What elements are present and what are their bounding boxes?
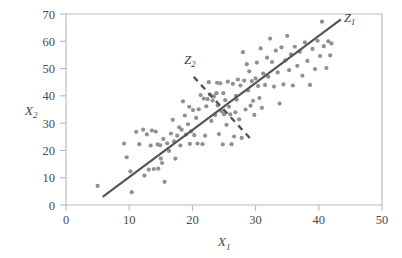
data-point	[308, 83, 312, 87]
data-point	[281, 82, 285, 86]
data-points	[96, 20, 334, 195]
x-tick-label: 30	[249, 213, 262, 227]
data-point	[229, 142, 233, 146]
data-point	[188, 142, 192, 146]
data-point	[274, 48, 278, 52]
data-point	[141, 128, 145, 132]
data-point	[270, 60, 274, 64]
x-axis-title: X1	[217, 234, 231, 252]
data-point	[204, 104, 208, 108]
data-point	[187, 105, 191, 109]
data-point	[224, 123, 228, 127]
data-point	[137, 142, 141, 146]
y-tick-label: 50	[43, 62, 56, 76]
data-point	[300, 74, 304, 78]
y-tick-labels: 010203040506070	[43, 8, 56, 213]
data-point	[215, 81, 219, 85]
data-point	[200, 142, 204, 146]
data-point	[180, 128, 184, 132]
data-point	[134, 130, 138, 134]
data-point	[183, 113, 187, 117]
x-axis-ticks	[66, 205, 382, 211]
data-point	[287, 68, 291, 72]
x-tick-label: 10	[123, 213, 136, 227]
data-point	[203, 134, 207, 138]
data-point	[276, 70, 280, 74]
data-point	[293, 45, 297, 49]
data-point	[241, 50, 245, 54]
data-point	[221, 142, 225, 146]
data-point	[237, 117, 241, 121]
data-point	[250, 79, 254, 83]
data-point	[291, 83, 295, 87]
x-tick-label: 20	[186, 213, 199, 227]
data-point	[238, 83, 242, 87]
data-point	[260, 106, 264, 110]
data-point	[199, 93, 203, 97]
data-point	[154, 130, 158, 134]
data-point	[214, 91, 218, 95]
data-point	[313, 67, 317, 71]
data-point	[318, 54, 322, 58]
data-point	[194, 116, 198, 120]
data-point	[142, 173, 146, 177]
data-point	[223, 98, 227, 102]
data-point	[156, 167, 160, 171]
x-tick-label: 0	[63, 213, 69, 227]
data-point	[160, 161, 164, 165]
data-point	[242, 78, 246, 82]
data-point	[265, 56, 269, 60]
data-point	[165, 141, 169, 145]
label-z2: Z2	[184, 53, 196, 69]
data-point	[252, 113, 256, 117]
data-point	[159, 157, 163, 161]
y-tick-label: 40	[43, 89, 56, 103]
data-point	[272, 84, 276, 88]
data-point	[268, 36, 272, 40]
data-point	[205, 97, 209, 101]
data-point	[130, 190, 134, 194]
y-tick-label: 20	[43, 144, 56, 158]
figure-container: 01020304050 010203040506070 Z1Z2 X1X2	[0, 0, 402, 258]
y-axis-ticks	[60, 14, 66, 205]
data-point	[236, 77, 240, 81]
data-point	[192, 133, 196, 137]
x-tick-label: 40	[313, 213, 326, 227]
data-point	[221, 91, 225, 95]
data-point	[305, 59, 309, 63]
data-point	[207, 80, 211, 84]
data-point	[147, 167, 151, 171]
data-point	[231, 82, 235, 86]
data-point	[128, 169, 132, 173]
data-point	[232, 134, 236, 138]
data-point	[247, 69, 251, 73]
y-tick-label: 70	[43, 8, 56, 22]
data-point	[202, 96, 206, 100]
data-point	[257, 96, 261, 100]
data-point	[254, 76, 258, 80]
y-axis-title: X2	[24, 103, 38, 121]
data-point	[240, 136, 244, 140]
data-point	[251, 99, 255, 103]
data-point	[322, 44, 326, 48]
data-point	[259, 46, 263, 50]
data-point	[161, 137, 165, 141]
data-point	[248, 104, 252, 108]
data-point	[150, 128, 154, 132]
data-point	[256, 84, 260, 88]
data-point	[169, 131, 173, 135]
data-point	[152, 167, 156, 171]
data-point	[149, 143, 153, 147]
data-point	[328, 53, 332, 57]
component-line-z1	[103, 19, 341, 196]
data-point	[279, 45, 283, 49]
data-point	[285, 34, 289, 38]
data-point	[195, 142, 199, 146]
data-point	[191, 108, 195, 112]
y-tick-label: 10	[43, 171, 56, 185]
data-point	[162, 180, 166, 184]
data-point	[175, 134, 179, 138]
data-point	[96, 184, 100, 188]
data-point	[186, 122, 190, 126]
scatter-plot: 01020304050 010203040506070 Z1Z2 X1X2	[0, 0, 402, 258]
